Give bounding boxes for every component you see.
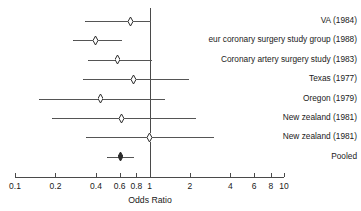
x-axis-tick	[190, 173, 191, 177]
study-label: VA (1984)	[321, 16, 357, 25]
forest-plot: Odds Ratio 0.10.20.40.60.81246810VA (198…	[0, 0, 361, 211]
study-effect-marker	[98, 94, 103, 103]
x-axis-tick	[55, 173, 56, 177]
x-axis-tick	[15, 173, 16, 177]
study-effect-marker	[119, 114, 124, 123]
ci-left-cap	[83, 79, 84, 80]
study-effect-marker	[131, 75, 136, 84]
ci-left-cap	[107, 157, 108, 158]
study-label: Coronary artery surgery study (1983)	[221, 55, 357, 64]
study-effect-marker	[93, 36, 98, 45]
ci-left-cap	[86, 137, 87, 138]
pooled-effect-marker	[118, 152, 123, 161]
x-axis-tick-label: 0.1	[0, 182, 35, 191]
study-effect-marker	[128, 17, 133, 26]
x-axis-tick	[254, 173, 255, 177]
x-axis-title: Odds Ratio	[90, 195, 210, 205]
study-label: Pooled	[331, 152, 357, 161]
study-label: New zealand (1981)	[283, 113, 357, 122]
ci-left-cap	[73, 40, 74, 41]
study-label: Texas (1977)	[309, 74, 357, 83]
x-axis-tick	[96, 173, 97, 177]
x-axis-tick	[284, 173, 285, 177]
x-axis-tick	[120, 173, 121, 177]
x-axis-tick-label: 10	[264, 182, 304, 191]
study-effect-marker	[115, 55, 120, 64]
study-label: eur coronary surgery study group (1988)	[209, 35, 358, 44]
x-axis-tick	[230, 173, 231, 177]
ci-left-cap	[52, 118, 53, 119]
x-axis-tick-label: 2	[170, 182, 210, 191]
confidence-interval-line	[85, 21, 151, 22]
x-axis-tick-label: 1	[130, 182, 170, 191]
x-axis-line	[15, 177, 284, 178]
confidence-interval-line	[88, 60, 152, 61]
study-label: Oregon (1979)	[303, 94, 357, 103]
study-effect-marker	[147, 133, 152, 142]
x-axis-tick	[271, 173, 272, 177]
null-effect-line	[150, 8, 151, 177]
ci-left-cap	[39, 99, 40, 100]
x-axis-tick-label: 0.2	[35, 182, 75, 191]
ci-left-cap	[85, 21, 86, 22]
x-axis-tick	[150, 173, 151, 177]
ci-left-cap	[88, 60, 89, 61]
study-label: New zealand (1981)	[283, 132, 357, 141]
x-axis-tick	[136, 173, 137, 177]
